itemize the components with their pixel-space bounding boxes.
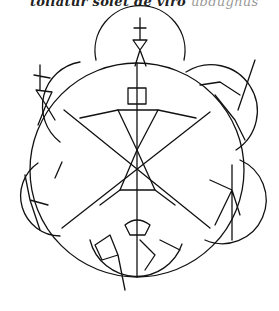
outer-circle-upper-left bbox=[42, 62, 80, 142]
sector-lines bbox=[62, 63, 210, 277]
central-figure bbox=[80, 88, 196, 235]
dancing-figures bbox=[25, 18, 255, 290]
outer-circle-upper-right bbox=[186, 65, 257, 150]
outer-circle-lower-left bbox=[21, 163, 60, 236]
wheel-illustration bbox=[0, 0, 279, 311]
outer-circle-bottom bbox=[90, 240, 182, 276]
